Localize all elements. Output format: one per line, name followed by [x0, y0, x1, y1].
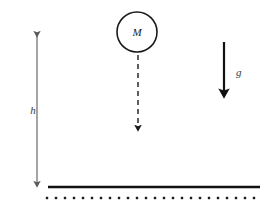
ground-hatch-dot [244, 197, 246, 199]
ground-hatch-dot [163, 197, 165, 199]
falling-mass-group: M [117, 12, 157, 52]
ground-hatch-dot [136, 197, 138, 199]
gravity-vector-group: g [224, 42, 242, 93]
ground-hatch-dot [55, 197, 57, 199]
ground-hatch-dot [46, 197, 48, 199]
ground-hatch-dot [154, 197, 156, 199]
ground-hatch-dot [172, 197, 174, 199]
ground-hatching-dots [46, 197, 255, 199]
ground-hatch-dot [82, 197, 84, 199]
ground-hatch-dot [235, 197, 237, 199]
ground-group [46, 187, 260, 199]
ground-hatch-dot [127, 197, 129, 199]
ground-hatch-dot [91, 197, 93, 199]
height-label: h [30, 104, 36, 116]
ground-hatch-dot [64, 197, 66, 199]
ground-hatch-dot [190, 197, 192, 199]
ground-hatch-dot [226, 197, 228, 199]
ground-hatch-dot [118, 197, 120, 199]
ground-hatch-dot [217, 197, 219, 199]
height-measure-group: h [30, 34, 37, 184]
free-fall-diagram-canvas: h M g [0, 0, 272, 213]
ground-hatch-dot [145, 197, 147, 199]
ground-hatch-dot [73, 197, 75, 199]
ground-hatch-dot [208, 197, 210, 199]
ground-hatch-dot [181, 197, 183, 199]
gravity-label: g [236, 66, 242, 78]
mass-label: M [131, 26, 142, 38]
diagram-svg: h M g [0, 0, 272, 213]
ground-hatch-dot [253, 197, 255, 199]
ground-hatch-dot [109, 197, 111, 199]
ground-hatch-dot [199, 197, 201, 199]
ground-hatch-dot [100, 197, 102, 199]
